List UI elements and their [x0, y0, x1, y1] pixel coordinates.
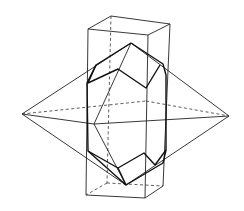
- crystal-diagram: [0, 0, 244, 211]
- prism: [86, 16, 170, 198]
